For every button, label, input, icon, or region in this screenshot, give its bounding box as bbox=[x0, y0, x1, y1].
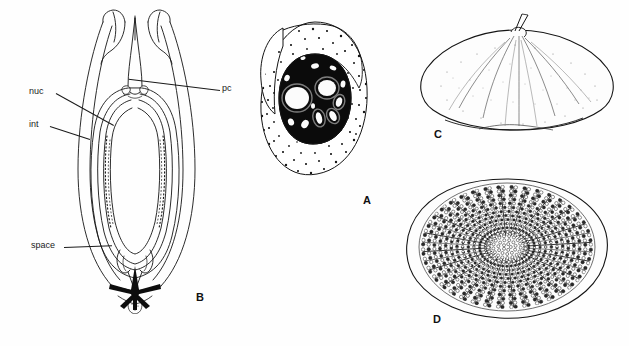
panel-letter-d: D bbox=[433, 313, 441, 325]
label-pc: pc bbox=[222, 83, 232, 93]
label-int: int bbox=[29, 119, 39, 129]
label-nuc: nuc bbox=[29, 86, 44, 96]
panel-c-drawing bbox=[415, 12, 620, 140]
panel-d-drawing bbox=[400, 175, 615, 323]
panel-letter-c: C bbox=[434, 128, 442, 140]
label-space: space bbox=[31, 240, 55, 250]
panel-letter-b: B bbox=[196, 291, 204, 303]
figure-plate: nuc int space pc B bbox=[0, 0, 629, 346]
panel-letter-a: A bbox=[363, 194, 371, 206]
panel-b-drawing bbox=[40, 4, 230, 314]
panel-a-drawing bbox=[253, 18, 377, 194]
